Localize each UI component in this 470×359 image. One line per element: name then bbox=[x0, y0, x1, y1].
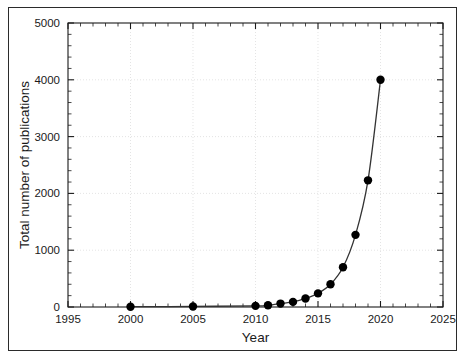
y-axis-title: Total number of publications bbox=[17, 81, 32, 249]
x-tick-label: 2000 bbox=[118, 313, 144, 325]
x-tick-label: 2010 bbox=[243, 313, 269, 325]
data-point-marker bbox=[326, 280, 334, 288]
data-point-marker bbox=[376, 76, 384, 84]
data-point-marker bbox=[339, 263, 347, 271]
data-point-marker bbox=[301, 294, 309, 302]
chart-plot: 1995200020052010201520202025 01000200030… bbox=[0, 0, 470, 359]
y-tick-label: 3000 bbox=[34, 131, 60, 143]
x-tick-label: 1995 bbox=[55, 313, 81, 325]
x-tick-label: 2015 bbox=[305, 313, 331, 325]
data-point-marker bbox=[189, 302, 197, 310]
y-axis-title-wrap: Total number of publications bbox=[14, 23, 34, 307]
x-tick-label: 2025 bbox=[430, 313, 456, 325]
data-point-marker bbox=[276, 299, 284, 307]
data-point-marker bbox=[351, 231, 359, 239]
data-point-marker bbox=[251, 302, 259, 310]
data-point-marker bbox=[264, 301, 272, 309]
y-axis-tick-labels: 010002000300040005000 bbox=[34, 17, 60, 313]
data-point-marker bbox=[314, 289, 322, 297]
gridlines bbox=[68, 23, 443, 307]
y-tick-label: 4000 bbox=[34, 74, 60, 86]
x-tick-label: 2005 bbox=[180, 313, 206, 325]
x-axis-title: Year bbox=[68, 330, 443, 345]
data-point-marker bbox=[289, 298, 297, 306]
y-tick-label: 0 bbox=[54, 301, 60, 313]
x-axis-tick-labels: 1995200020052010201520202025 bbox=[55, 313, 456, 325]
data-point-marker bbox=[126, 303, 134, 311]
y-tick-label: 2000 bbox=[34, 187, 60, 199]
data-point-marker bbox=[364, 176, 372, 184]
y-tick-label: 5000 bbox=[34, 17, 60, 29]
x-tick-label: 2020 bbox=[368, 313, 394, 325]
figure: 1995200020052010201520202025 01000200030… bbox=[0, 0, 470, 359]
y-tick-label: 1000 bbox=[34, 244, 60, 256]
